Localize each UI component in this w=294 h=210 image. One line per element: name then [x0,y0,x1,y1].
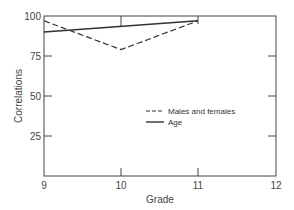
y-tick-label-25: 25 [30,131,42,142]
x-tick-label-9: 9 [41,180,47,191]
x-tick-label-12: 12 [270,180,282,191]
x-axis-ticks-bottom [121,168,198,176]
legend-label-age: Age [168,118,183,127]
y-axis-title: Correlations [13,69,24,123]
x-axis-title: Grade [146,194,174,205]
legend-label-males-and-females: Males and females [168,107,235,116]
y-tick-label-75: 75 [30,51,42,62]
plot-frame [44,16,276,176]
y-tick-label-100: 100 [24,11,41,22]
legend: Males and females Age [146,107,235,127]
y-axis-ticks-right [268,56,276,136]
chart-svg: 100 75 50 25 9 10 11 12 Grade Correlatio… [0,0,294,210]
y-tick-label-50: 50 [30,91,42,102]
x-tick-label-10: 10 [115,180,127,191]
y-axis-ticks-left [44,56,52,136]
x-tick-label-11: 11 [193,180,204,191]
